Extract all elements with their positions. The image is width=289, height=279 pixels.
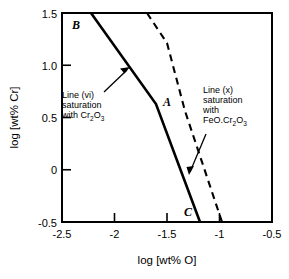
point-label-b: B bbox=[71, 18, 80, 32]
annotation-left-line2: saturation bbox=[62, 100, 102, 110]
annotation-left-line3-sub2: 3 bbox=[101, 115, 105, 122]
y-axis-title: log [wt% Cr] bbox=[8, 87, 20, 149]
chart-svg: -2.5 -2 -1.5 -1 -0.5 1.5 1.0 0.5 0 -0.5 … bbox=[0, 0, 289, 279]
point-label-a: A bbox=[162, 95, 171, 109]
point-label-c: C bbox=[184, 205, 193, 219]
annotation-left-line1: Line (vi) bbox=[62, 90, 94, 100]
chart-figure: -2.5 -2 -1.5 -1 -0.5 1.5 1.0 0.5 0 -0.5 … bbox=[0, 0, 289, 279]
annotation-right-line2: saturation bbox=[203, 95, 243, 105]
x-tick-label-4: -0.5 bbox=[263, 228, 282, 240]
y-tick-label-2: 0.5 bbox=[42, 112, 57, 124]
annotation-right-line4: FeO.Cr2O3 bbox=[203, 115, 247, 127]
y-tick-label-0: 1.5 bbox=[42, 8, 57, 20]
annotation-left-line3-pre: with Cr bbox=[61, 110, 90, 120]
annotation-right-line3: with bbox=[202, 105, 219, 115]
annotation-right-line4-mid: O bbox=[236, 115, 243, 125]
annotation-left-line3-mid: O bbox=[94, 110, 101, 120]
y-tick-label-1: 1.0 bbox=[42, 60, 57, 72]
y-tick-label-3: 0 bbox=[51, 164, 57, 176]
x-axis-title: log [wt% O] bbox=[138, 254, 197, 266]
annotation-right-line4-pre: FeO.Cr bbox=[203, 115, 233, 125]
annotation-left-line3: with Cr2O3 bbox=[61, 110, 105, 122]
annotation-right-line1: Line (x) bbox=[203, 85, 233, 95]
chart-background bbox=[0, 0, 289, 279]
x-tick-label-0: -2.5 bbox=[53, 228, 72, 240]
annotation-right-line4-sub2: 3 bbox=[243, 120, 247, 127]
x-tick-label-2: -1.5 bbox=[158, 228, 177, 240]
x-tick-label-3: -1 bbox=[215, 228, 225, 240]
y-tick-label-4: -0.5 bbox=[38, 217, 57, 229]
x-tick-label-1: -2 bbox=[110, 228, 120, 240]
